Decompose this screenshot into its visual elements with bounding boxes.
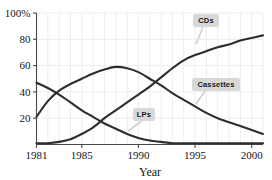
line-chart: 20406080100% 19811985199019952000 Year C…	[0, 0, 272, 180]
y-tick-label: 20	[20, 112, 32, 124]
x-tick-label: 1990	[127, 149, 150, 161]
x-tick-label: 1985	[71, 149, 94, 161]
x-tick-label: 1981	[26, 149, 48, 161]
x-tick-label: 2000	[241, 149, 264, 161]
y-tick-label: 80	[20, 33, 32, 45]
y-tick-label: 100%	[5, 7, 31, 19]
x-tick-label: 1995	[184, 149, 207, 161]
y-tick-label: 40	[20, 86, 32, 98]
chart-container: 20406080100% 19811985199019952000 Year C…	[0, 0, 272, 180]
callout-text-lps: LPs	[137, 110, 151, 119]
y-tick-label: 60	[20, 59, 32, 71]
x-axis-title: Year	[139, 165, 161, 179]
callout-text-cds: CDs	[198, 16, 214, 25]
callout-text-cassettes: Cassettes	[197, 80, 234, 89]
